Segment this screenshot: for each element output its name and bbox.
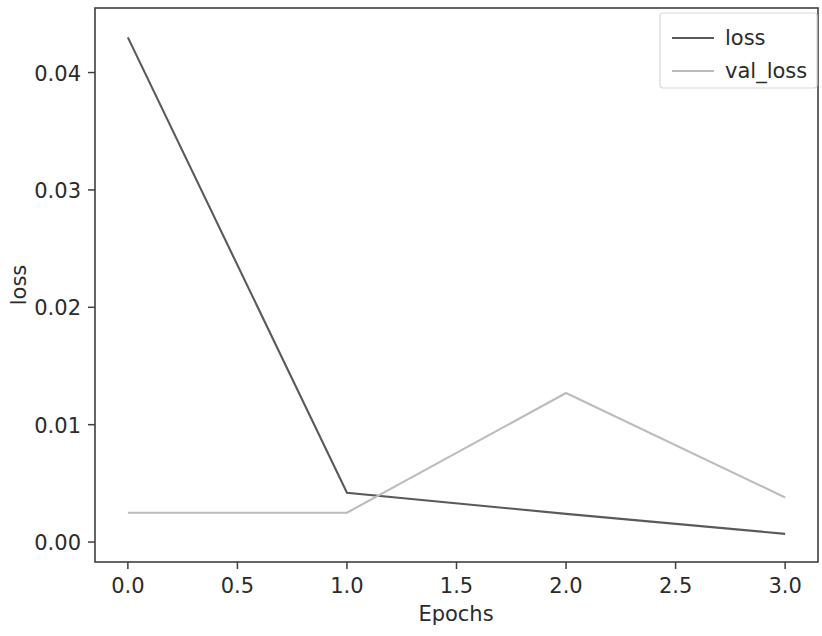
legend-label-val-loss: val_loss xyxy=(725,59,807,84)
y-tick-marks xyxy=(88,73,95,542)
series-line-loss xyxy=(128,37,785,533)
y-tick-label: 0.03 xyxy=(34,179,81,203)
axes-frame xyxy=(95,8,818,562)
y-axis-label: loss xyxy=(7,265,31,306)
x-tick-marks xyxy=(128,562,785,569)
x-tick-label: 2.5 xyxy=(659,574,692,598)
data-series-group xyxy=(128,37,785,533)
legend-label-loss: loss xyxy=(725,26,766,50)
x-tick-label: 3.0 xyxy=(768,574,801,598)
y-tick-label: 0.00 xyxy=(34,531,81,555)
x-tick-label: 0.5 xyxy=(221,574,254,598)
x-tick-label: 1.0 xyxy=(330,574,363,598)
x-tick-labels: 0.00.51.01.52.02.53.0 xyxy=(111,574,802,598)
matplotlib-figure: 0.00.51.01.52.02.53.0 0.000.010.020.030.… xyxy=(0,0,822,636)
line-chart-canvas: 0.00.51.01.52.02.53.0 0.000.010.020.030.… xyxy=(0,0,822,636)
legend[interactable]: loss val_loss xyxy=(660,13,817,88)
y-tick-label: 0.04 xyxy=(34,62,81,86)
y-tick-label: 0.02 xyxy=(34,296,81,320)
x-axis-label: Epochs xyxy=(418,602,493,626)
y-tick-labels: 0.000.010.020.030.04 xyxy=(34,62,81,555)
y-tick-label: 0.01 xyxy=(34,414,81,438)
x-tick-label: 0.0 xyxy=(111,574,144,598)
x-tick-label: 2.0 xyxy=(549,574,582,598)
x-tick-label: 1.5 xyxy=(440,574,473,598)
series-line-val-loss xyxy=(128,393,785,513)
